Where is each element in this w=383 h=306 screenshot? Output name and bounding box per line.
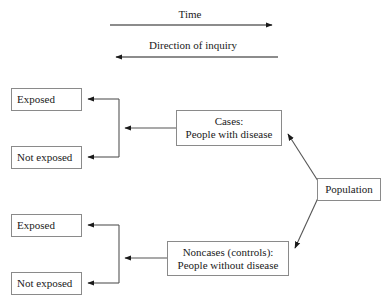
node-label: Exposed: [17, 219, 55, 232]
direction-of-inquiry-label: Direction of inquiry: [118, 39, 268, 51]
node-not-exposed-noncases: Not exposed: [11, 272, 82, 295]
node-exposed-noncases: Exposed: [11, 214, 82, 237]
node-label: Population: [325, 183, 373, 196]
node-label: Exposed: [17, 93, 55, 106]
node-label-line2: People with disease: [186, 128, 273, 141]
case-control-study-diagram: Time Direction of inquiry Exposed Not ex…: [0, 0, 383, 306]
node-label-line2: People without disease: [178, 259, 279, 272]
node-label: Not exposed: [17, 151, 72, 164]
node-cases: Cases: People with disease: [176, 110, 282, 146]
population-to-cases-connector: [288, 134, 318, 181]
node-label: Not exposed: [17, 277, 72, 290]
time-axis-label: Time: [140, 8, 240, 20]
cases-branch-connector: [88, 99, 176, 157]
noncases-branch-connector: [88, 225, 167, 283]
node-label-line1: Noncases (controls):: [183, 246, 274, 259]
node-label-line1: Cases:: [215, 115, 244, 128]
node-population: Population: [317, 178, 381, 201]
node-not-exposed-cases: Not exposed: [11, 146, 82, 169]
node-exposed-cases: Exposed: [11, 88, 82, 111]
population-to-noncases-connector: [295, 198, 318, 248]
node-noncases: Noncases (controls): People without dise…: [167, 241, 289, 276]
